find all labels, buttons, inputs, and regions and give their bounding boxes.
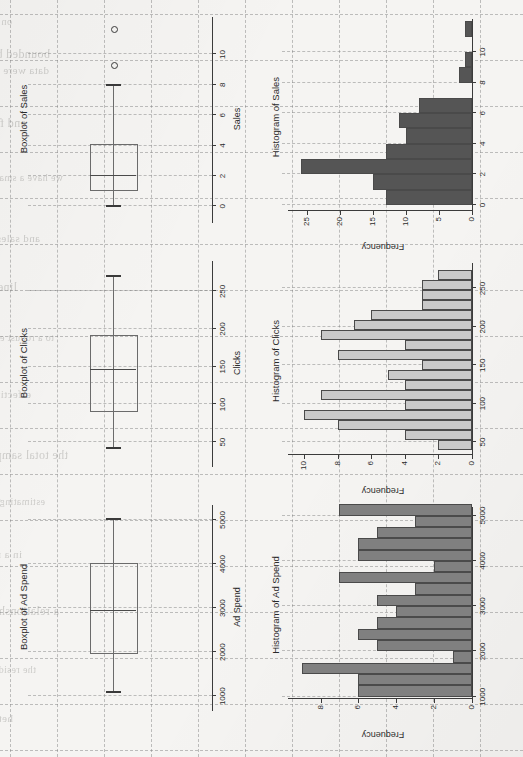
boxplot-iqr-box — [90, 335, 138, 412]
histogram-y-tick — [406, 211, 407, 215]
boxplot-axis-tick — [212, 175, 216, 176]
boxplot-category-label: Sales — [232, 79, 242, 159]
histogram-x-tick — [472, 403, 476, 404]
histogram-bar — [415, 516, 472, 527]
boxplot-median-line — [90, 369, 136, 370]
paper-grid-line-horizontal — [10, 0, 11, 757]
histogram-bar — [377, 640, 472, 651]
boxplot-median-line — [90, 610, 136, 611]
histogram-bar — [371, 310, 472, 320]
histogram-bar — [405, 400, 472, 410]
histogram-x-axis — [472, 19, 473, 215]
histogram-y-tick-label: 4 — [391, 705, 400, 733]
boxplot-gridline — [28, 441, 212, 442]
histogram-gridline-vertical — [282, 82, 472, 83]
boxplot-axis-tick-label: 250 — [218, 275, 227, 307]
histogram-y-tick-label: 15 — [368, 217, 377, 245]
boxplot-axis-tick — [212, 441, 216, 442]
histogram-y-tick-label: 6 — [366, 461, 375, 489]
boxplot-axis-line — [212, 17, 213, 223]
histogram-x-tick-label: 10 — [478, 34, 487, 70]
histogram-bar — [405, 430, 472, 440]
histogram-y-tick — [472, 211, 473, 215]
histogram-x-tick — [472, 82, 476, 83]
histogram-bar — [321, 330, 472, 340]
boxplot-axis-tick — [212, 519, 216, 520]
histogram-bar — [358, 685, 472, 696]
boxplot-gridline — [28, 114, 212, 115]
histogram-bar — [358, 674, 472, 685]
boxplot-axis-tick — [212, 84, 216, 85]
histogram-bar — [422, 280, 472, 290]
boxplot-gridline — [28, 695, 212, 696]
histogram-x-tick-label: 100 — [478, 386, 487, 422]
histogram-bar — [405, 340, 472, 350]
histogram-x-tick-label: 2000 — [478, 633, 487, 669]
histogram-y-tick — [321, 699, 322, 703]
histogram-y-tick — [340, 211, 341, 215]
histogram-y-axis — [288, 454, 472, 455]
histogram-y-tick-label: 2 — [429, 705, 438, 733]
histogram-y-axis-label: Frequency — [362, 486, 405, 496]
histogram-x-tick-label: 150 — [478, 347, 487, 383]
histogram-y-tick-label: 8 — [333, 461, 342, 489]
histogram-bar — [438, 440, 472, 450]
histogram-y-tick-label: 0 — [467, 217, 476, 245]
histogram-y-tick — [304, 455, 305, 459]
boxplot-category-label: Ad Spend — [232, 567, 242, 647]
boxplot-axis-tick-label: 4000 — [218, 548, 227, 580]
boxplot-axis-tick — [212, 205, 216, 206]
boxplot-axis-tick-label: 1000 — [218, 680, 227, 712]
histogram-y-tick-label: 10 — [401, 217, 410, 245]
histogram-panel-0: Histogram of Ad Spend1000200030004000500… — [268, 503, 506, 739]
histogram-x-tick-label: 4000 — [478, 543, 487, 579]
boxplot-axis-tick — [212, 607, 216, 608]
boxplot-gridline — [28, 328, 212, 329]
boxplot-axis-tick — [212, 695, 216, 696]
histogram-x-tick — [472, 515, 476, 516]
histogram-bar — [434, 561, 472, 572]
histogram-bar — [377, 595, 472, 606]
histogram-x-tick — [472, 143, 476, 144]
boxplot-title: Boxplot of Ad Spend — [18, 509, 29, 705]
histogram-x-tick-label: 5000 — [478, 498, 487, 534]
histogram-bar — [358, 629, 472, 640]
histogram-bar — [338, 420, 472, 430]
boxplot-axis-tick-label: 8 — [218, 69, 227, 101]
histogram-x-axis — [472, 263, 473, 459]
histogram-x-tick — [472, 51, 476, 52]
boxplot-axis-tick-label: 100 — [218, 388, 227, 420]
histogram-bar — [373, 174, 472, 189]
boxplot-whisker-cap-min — [106, 691, 121, 693]
histogram-x-tick — [472, 560, 476, 561]
boxplot-median-line — [90, 175, 136, 176]
boxplot-axis-tick — [212, 145, 216, 146]
histogram-y-tick — [396, 699, 397, 703]
paper-grid-line-vertical — [0, 750, 523, 751]
histogram-y-tick-label: 20 — [335, 217, 344, 245]
boxplot-axis-tick — [212, 366, 216, 367]
histogram-bar — [388, 370, 472, 380]
boxplot-axis-tick-label: 3000 — [218, 592, 227, 624]
boxplot-axis-tick-label: 2 — [218, 160, 227, 192]
histogram-x-tick-label: 50 — [478, 424, 487, 460]
histogram-y-axis — [288, 210, 472, 211]
boxplot-axis-tick-label: 6 — [218, 99, 227, 131]
histogram-panel-2: Histogram of Sales02468100510152025Frequ… — [268, 15, 506, 251]
boxplot-axis-tick — [212, 290, 216, 291]
boxplot-whisker-cap-min — [106, 447, 121, 449]
boxplot-axis-tick-label: 50 — [218, 426, 227, 458]
histogram-bar — [358, 538, 472, 549]
histogram-y-tick — [338, 455, 339, 459]
histogram-bar — [338, 350, 472, 360]
boxplot-axis-tick — [212, 563, 216, 564]
boxplot-whisker-cap-max — [106, 275, 121, 277]
boxplot-axis-tick — [212, 114, 216, 115]
boxplot-axis-tick-label: 0 — [218, 190, 227, 222]
boxplot-panel-sales: Boxplot of Sales0246810Sales — [14, 15, 246, 251]
histogram-x-tick — [472, 204, 476, 205]
histogram-y-tick-label: 10 — [299, 461, 308, 489]
histogram-bar — [422, 290, 472, 300]
histogram-x-tick-label: 3000 — [478, 588, 487, 624]
histogram-x-tick — [472, 173, 476, 174]
